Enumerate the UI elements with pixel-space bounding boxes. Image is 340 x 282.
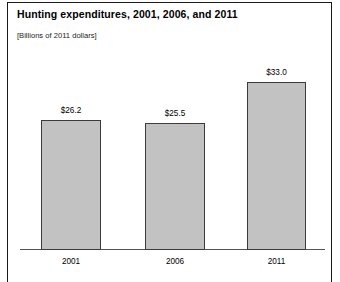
bar-value-label-2001: $26.2 bbox=[41, 106, 101, 115]
bar-value-label-2011: $33.0 bbox=[247, 68, 306, 77]
x-axis-tick-label-2011: 2011 bbox=[247, 257, 306, 266]
x-axis-tick-label-2006: 2006 bbox=[145, 257, 205, 266]
bar-2011 bbox=[247, 82, 306, 250]
bar-2006 bbox=[145, 123, 205, 250]
x-axis-tick-label-2001: 2001 bbox=[41, 257, 101, 266]
bar-2001 bbox=[41, 120, 101, 250]
bar-value-label-2006: $25.5 bbox=[145, 109, 205, 118]
